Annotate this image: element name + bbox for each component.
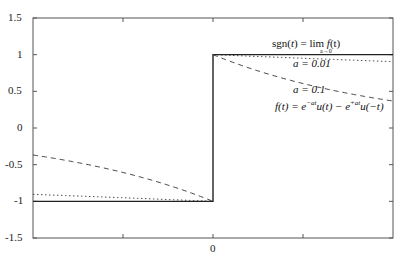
ann-text: sgn( bbox=[272, 37, 291, 49]
annotation-f-definition: f(t) = e−atu(t) − e+atu(−t) bbox=[275, 99, 384, 112]
ann-sup: +at bbox=[350, 99, 360, 107]
annotation-sgn-limit: sgn(t) = lim f(t) a→0 bbox=[272, 37, 340, 49]
annotation-a-0.01: a = 0.01 bbox=[293, 57, 331, 69]
y-tick-label: -1.5 bbox=[5, 231, 22, 243]
curve-a-0.01 bbox=[33, 194, 213, 201]
y-tick-label: 1 bbox=[17, 48, 23, 60]
ann-sup: −at bbox=[306, 99, 316, 107]
annotation-a-0.1: a = 0.1 bbox=[293, 83, 325, 95]
y-tick-label: -1 bbox=[14, 194, 23, 206]
ann-subscript: a→0 bbox=[320, 48, 332, 54]
curve-a-0.1 bbox=[33, 155, 213, 201]
ann-text: u(t) − e bbox=[316, 100, 350, 112]
sgn-line bbox=[33, 55, 393, 202]
ann-text: u(−t) bbox=[360, 100, 383, 112]
y-tick-label: 0.5 bbox=[8, 84, 22, 96]
x-tick-label: 0 bbox=[210, 242, 216, 254]
y-tick-label: 0 bbox=[17, 121, 23, 133]
ann-text: f(t) = e bbox=[275, 100, 306, 112]
chart-canvas bbox=[0, 0, 410, 265]
y-tick-label: 1.5 bbox=[8, 11, 22, 23]
y-tick-label: -0.5 bbox=[5, 158, 22, 170]
